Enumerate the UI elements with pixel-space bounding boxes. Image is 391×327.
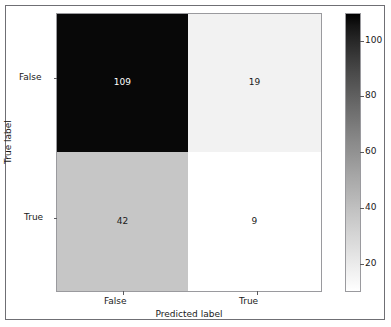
colorbar-gradient <box>346 14 360 291</box>
matrix-cell-true-false: 42 <box>57 152 188 291</box>
y-axis-title: True label <box>3 112 13 172</box>
colorbar-tick-label-80: 80 <box>365 90 376 100</box>
y-tick-label-true: True <box>24 212 43 222</box>
colorbar-tick-label-20: 20 <box>365 258 376 268</box>
matrix-cell-true-true: 9 <box>188 152 321 291</box>
cell-value: 19 <box>249 78 261 87</box>
colorbar-tick-label-40: 40 <box>365 202 376 212</box>
y-tick-mark-true <box>54 218 58 219</box>
x-axis-title: Predicted label <box>56 309 322 319</box>
colorbar <box>345 13 361 292</box>
confusion-matrix-grid: 109 19 42 9 <box>57 14 321 291</box>
colorbar-tick-mark-80 <box>360 96 364 97</box>
colorbar-tick-label-60: 60 <box>365 146 376 156</box>
cell-value: 9 <box>252 217 258 226</box>
x-tick-mark-false <box>123 291 124 295</box>
x-tick-label-false: False <box>104 296 127 306</box>
cell-value: 109 <box>114 78 131 87</box>
y-tick-label-false: False <box>19 72 42 82</box>
colorbar-tick-mark-100 <box>360 41 364 42</box>
x-tick-label-true: True <box>239 296 258 306</box>
colorbar-tick-label-100: 100 <box>365 35 382 45</box>
colorbar-tick-mark-40 <box>360 208 364 209</box>
matrix-cell-false-false: 109 <box>57 14 188 152</box>
y-tick-mark-false <box>54 78 58 79</box>
confusion-matrix-figure: 109 19 42 9 False True False True True l… <box>0 0 391 327</box>
matrix-cell-false-true: 19 <box>188 14 321 152</box>
heatmap-axes: 109 19 42 9 <box>56 13 322 292</box>
x-tick-mark-true <box>257 291 258 295</box>
cell-value: 42 <box>117 217 129 226</box>
colorbar-tick-mark-20 <box>360 264 364 265</box>
colorbar-tick-mark-60 <box>360 152 364 153</box>
